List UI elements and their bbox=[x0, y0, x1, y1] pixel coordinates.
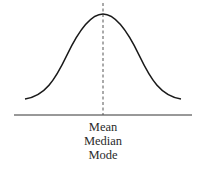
label-mean: Mean bbox=[53, 120, 153, 134]
label-mode: Mode bbox=[53, 148, 153, 162]
label-median: Median bbox=[53, 134, 153, 148]
